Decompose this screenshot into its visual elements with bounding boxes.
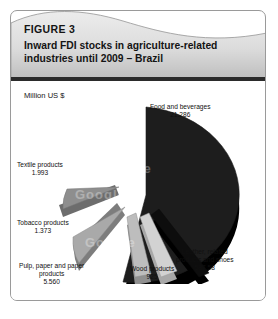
data-label-textile-name: Textile products: [17, 161, 63, 169]
data-label-pulp-name-line2: products: [19, 270, 84, 278]
data-label-pulp-name-line1: Pulp, paper and paper: [19, 262, 84, 270]
data-label-food: Food and beverages 21.286: [150, 103, 211, 119]
figure-title-line2: industries until 2009 – Brazil: [24, 52, 257, 65]
data-label-leather-value: 587,58: [176, 264, 234, 272]
data-label-textile-value: 1.993: [17, 169, 63, 177]
data-label-wood-value: 925: [130, 273, 174, 281]
figure-title-line1: Inward FDI stocks in agriculture-related: [24, 39, 257, 52]
chart-area: Million US $ Google: [11, 81, 265, 300]
data-label-wood: Wood products 925: [130, 265, 174, 281]
data-label-textile: Textile products 1.993: [17, 161, 63, 177]
data-label-food-name: Food and beverages: [150, 103, 211, 111]
data-label-leather: Leather, related products and shoes 587,…: [176, 248, 234, 273]
data-label-tobacco-value: 1.373: [17, 227, 69, 235]
figure-box: FIGURE 3 Inward FDI stocks in agricultur…: [10, 10, 266, 301]
header-text-block: FIGURE 3 Inward FDI stocks in agricultur…: [24, 23, 257, 65]
data-label-leather-name-line1: Leather, related: [176, 248, 234, 256]
data-label-food-value: 21.286: [150, 111, 211, 119]
data-label-tobacco: Tobacco products 1.373: [17, 219, 69, 235]
data-label-pulp-value: 5.560: [19, 278, 84, 286]
figure-number: FIGURE 3: [24, 23, 257, 36]
figure-header: FIGURE 3 Inward FDI stocks in agricultur…: [11, 11, 265, 77]
data-label-pulp: Pulp, paper and paper products 5.560: [19, 262, 84, 287]
data-label-wood-name: Wood products: [130, 265, 174, 273]
data-label-tobacco-name: Tobacco products: [17, 219, 69, 227]
pie-slice-pulp: Google: [73, 203, 136, 271]
watermark-textile: Google: [75, 187, 126, 202]
watermark-pulp: Google: [85, 235, 136, 250]
figure-title: Inward FDI stocks in agriculture-related…: [24, 39, 257, 65]
watermark-food: Google: [101, 161, 152, 176]
data-label-leather-name-line2: products and shoes: [176, 256, 234, 264]
